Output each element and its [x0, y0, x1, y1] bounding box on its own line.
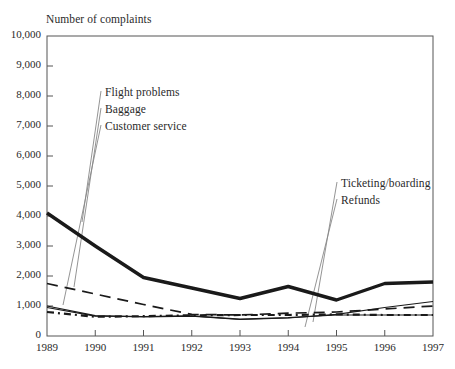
annotation-leader-line: [313, 182, 337, 322]
series-line: [47, 213, 433, 300]
annotation-leader-line: [305, 199, 337, 327]
complaints-line-chart: Number of complaints 01,0002,0003,0004,0…: [0, 0, 455, 369]
series-annotation-label: Customer service: [105, 120, 187, 132]
data-series-group: [47, 213, 433, 320]
series-annotation-label: Baggage: [105, 103, 146, 115]
x-tick-marks: [95, 330, 385, 336]
series-annotation-label: Ticketing/boarding: [341, 177, 431, 189]
annotation-leader-line: [63, 125, 101, 305]
annotation-leader-line: [74, 108, 101, 287]
series-annotation-label: Flight problems: [105, 86, 180, 98]
series-annotation-label: Refunds: [341, 194, 380, 206]
y-tick-marks: [47, 66, 53, 306]
